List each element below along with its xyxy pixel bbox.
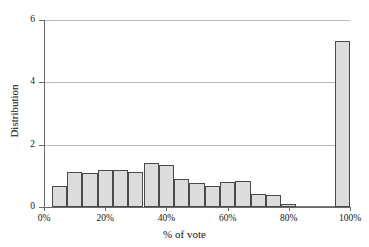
y-axis-title: Distribution [8,51,20,171]
histogram-bar [335,41,350,207]
x-tick-label: 20% [96,213,113,223]
histogram-bar [266,195,281,207]
gridline [44,20,350,21]
x-tick-label: 80% [280,213,297,223]
y-tick-mark [39,145,44,146]
x-tick-label: 100% [339,213,361,223]
y-tick-label: 6 [5,15,35,25]
histogram-bar [128,172,143,208]
histogram-bar [144,163,159,207]
x-tick-mark [228,207,229,211]
histogram-bar [174,179,189,207]
histogram-bar [67,172,82,208]
histogram-bar [52,186,67,207]
x-axis-title: % of vote [0,228,369,240]
x-tick-label: 40% [158,213,175,223]
y-tick-label: 0 [5,202,35,212]
x-tick-mark [166,207,167,211]
histogram-bar [220,182,235,207]
histogram-bar [159,165,174,207]
plot-area [44,20,350,207]
x-tick-label: 60% [219,213,236,223]
y-tick-mark [39,20,44,21]
histogram-bar [205,186,220,207]
y-axis-line [44,20,45,208]
x-axis-line [44,207,350,208]
x-tick-mark [44,207,45,211]
x-tick-mark [350,207,351,211]
gridline [44,145,350,146]
x-tick-label: 0% [38,213,51,223]
histogram-bar [235,181,250,207]
histogram-chart: 0246 0%20%40%60%80%100% % of vote Distri… [0,0,369,247]
y-tick-mark [39,82,44,83]
x-tick-mark [289,207,290,211]
histogram-bar [189,183,204,207]
x-tick-mark [105,207,106,211]
histogram-bar [113,170,128,207]
histogram-bar [98,170,113,207]
gridline [44,82,350,83]
histogram-bar [82,173,97,207]
histogram-bar [251,194,266,207]
